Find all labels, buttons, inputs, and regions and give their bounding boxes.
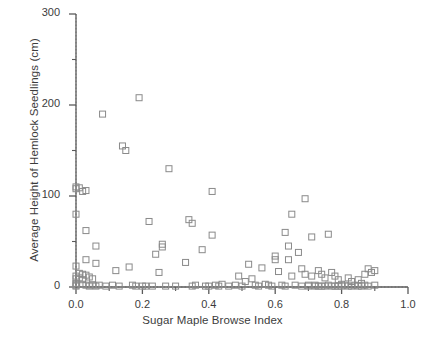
data-point-marker (276, 269, 282, 275)
data-point-marker (83, 257, 89, 263)
data-point-marker (93, 260, 99, 266)
data-point-marker (309, 234, 315, 240)
data-point-marker (272, 253, 278, 259)
data-point-marker (285, 257, 291, 263)
data-point-marker (272, 257, 278, 263)
axis-tick-marks (69, 14, 408, 294)
data-point-marker (199, 247, 205, 253)
data-point-marker (153, 251, 159, 257)
data-point-marker (163, 283, 169, 289)
data-point-marker (226, 283, 232, 289)
data-point-marker (325, 231, 331, 237)
reference-lines (76, 14, 408, 287)
data-point-marker (209, 188, 215, 194)
data-point-marker (282, 229, 288, 235)
data-point-markers (73, 95, 378, 289)
data-point-marker (136, 95, 142, 101)
data-point-marker (100, 111, 106, 117)
data-point-marker (302, 196, 308, 202)
scatter-plot-figure: Average Height of Hemlock Seedlings (cm)… (0, 0, 425, 339)
data-point-marker (249, 276, 255, 282)
data-point-marker (236, 273, 242, 279)
data-point-marker (103, 283, 109, 289)
data-point-marker (166, 166, 172, 172)
data-point-marker (83, 228, 89, 234)
axis-lines (76, 14, 408, 287)
data-point-marker (126, 264, 132, 270)
data-point-marker (183, 259, 189, 265)
data-point-marker (209, 232, 215, 238)
data-point-marker (116, 283, 122, 289)
data-point-marker (113, 268, 119, 274)
plot-canvas (0, 0, 425, 339)
data-point-marker (146, 218, 152, 224)
data-point-marker (309, 273, 315, 279)
data-point-marker (93, 243, 99, 249)
data-point-marker (289, 273, 295, 279)
data-point-marker (259, 265, 265, 271)
data-point-marker (285, 243, 291, 249)
data-point-marker (149, 283, 155, 289)
data-point-marker (156, 269, 162, 275)
data-point-marker (295, 249, 301, 255)
data-point-marker (299, 283, 305, 289)
data-point-marker (246, 261, 252, 267)
data-point-marker (289, 211, 295, 217)
